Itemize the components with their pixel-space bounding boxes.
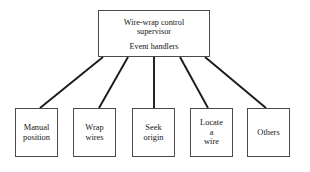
leaf-label-line-2: origin	[143, 133, 163, 142]
node-others: Others	[247, 108, 290, 157]
leaf-label-line-1: Seek	[145, 123, 161, 132]
hierarchy-diagram: Wire-wrap control supervisor Event handl…	[0, 0, 310, 172]
node-manual-position: Manual position	[15, 108, 58, 157]
root-title-line-2: supervisor	[137, 27, 171, 36]
leaf-label-line-1: Wrap	[85, 123, 103, 132]
connector-line-wrap-wires	[99, 57, 128, 108]
connector-line-others	[205, 57, 266, 108]
connector-line-manual-position	[40, 57, 103, 108]
connector-line-locate-a-wire	[180, 57, 208, 108]
leaf-label-line-2: a	[210, 128, 214, 137]
root-group-label: Event handlers	[130, 42, 179, 51]
leaf-label-line-2: position	[23, 133, 50, 142]
leaf-label-line-2: wires	[85, 133, 103, 142]
node-wire-wrap-control-supervisor: Wire-wrap control supervisor Event handl…	[98, 10, 210, 57]
leaf-label-line-1: Others	[257, 128, 279, 137]
leaf-label-line-3: wire	[204, 137, 219, 146]
node-seek-origin: Seek origin	[132, 108, 175, 157]
node-locate-a-wire: Locate a wire	[190, 108, 233, 157]
root-title-line-1: Wire-wrap control	[124, 18, 184, 27]
node-wrap-wires: Wrap wires	[73, 108, 116, 157]
leaf-label-line-1: Manual	[24, 123, 50, 132]
leaf-label-line-1: Locate	[200, 118, 223, 127]
